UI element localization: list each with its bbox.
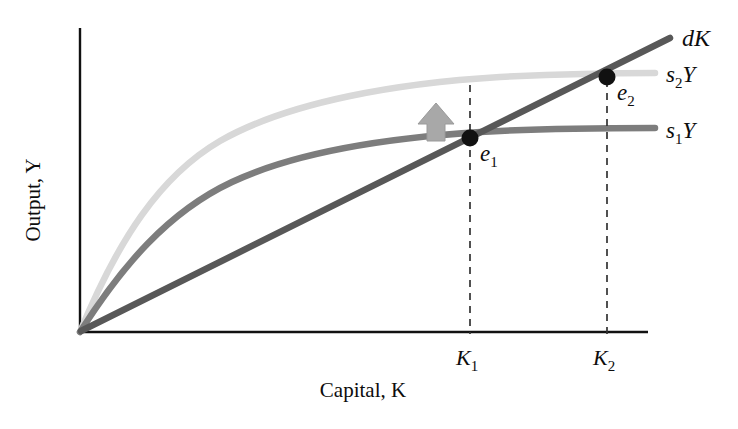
x-tick-label-K2: K2: [592, 345, 615, 374]
curve-label-s1Y: s1Y: [666, 118, 697, 147]
y-axis-label: Output, Y: [21, 158, 45, 241]
equilibrium-label-e2: e2: [617, 80, 635, 109]
equilibrium-dot-e1: [462, 130, 479, 147]
x-tick-label-K1: K1: [455, 345, 478, 374]
curve-label-s2Y: s2Y: [666, 62, 697, 91]
solow-model-diagram: dK s2Y s1Y e1 e2 K1 K2 Capital, K Output…: [0, 0, 738, 429]
diagram-canvas: dK s2Y s1Y e1 e2 K1 K2 Capital, K Output…: [0, 0, 738, 429]
x-axis-label: Capital, K: [320, 378, 406, 402]
equilibrium-dot-e2: [599, 69, 616, 86]
curve-label-dK: dK: [682, 25, 712, 51]
equilibrium-label-e1: e1: [480, 141, 498, 170]
curve-s1Y: [80, 128, 655, 332]
curve-s2Y: [80, 73, 655, 332]
